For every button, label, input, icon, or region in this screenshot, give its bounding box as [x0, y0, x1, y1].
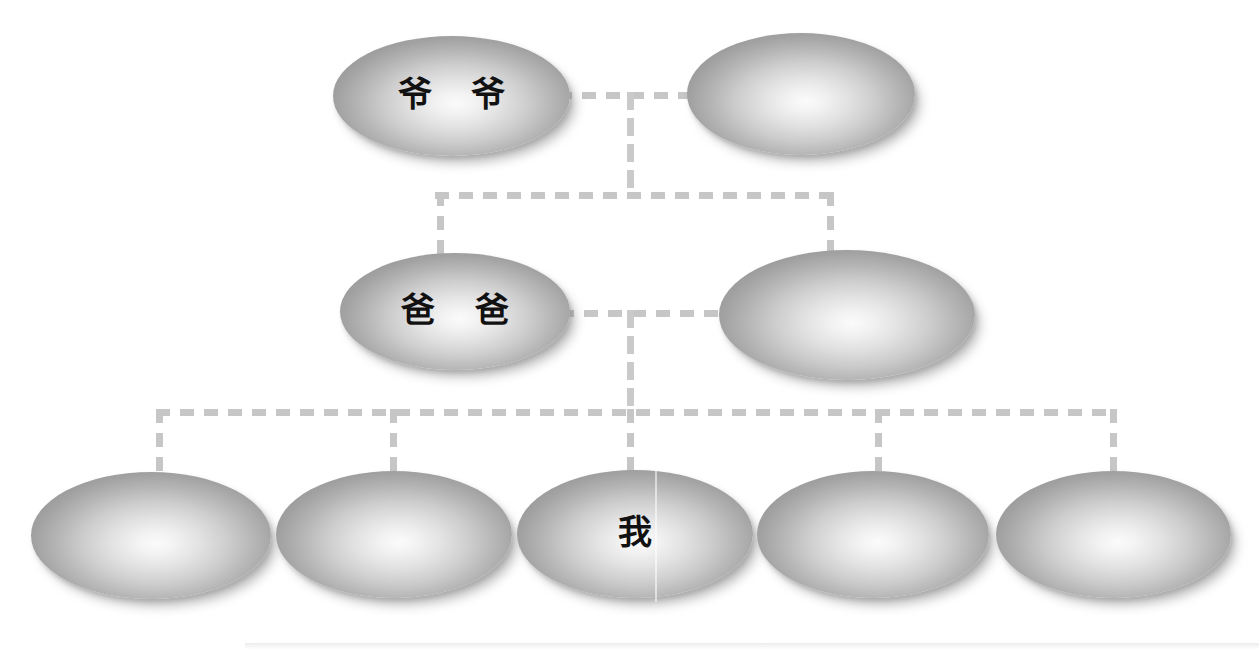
node-father-label: 爸 爸 — [387, 293, 523, 327]
node-father[interactable]: 爸 爸 — [340, 253, 570, 370]
connector-children-bus — [156, 409, 1116, 416]
node-sibling-4[interactable] — [757, 471, 989, 598]
node-grandfather[interactable]: 爷 爷 — [333, 36, 570, 156]
node-self[interactable]: 我 — [517, 470, 753, 598]
node-sibling-2[interactable] — [276, 471, 512, 598]
family-tree-diagram: 爷 爷 爸 爸 我 — [0, 0, 1259, 655]
connector-parents-spouse — [560, 310, 728, 317]
node-self-label: 我 — [618, 515, 652, 549]
connector-parents-bus — [435, 192, 834, 199]
node-sibling-5[interactable] — [996, 471, 1231, 598]
node-sibling-1[interactable] — [31, 472, 271, 599]
node-grandmother[interactable] — [687, 33, 915, 155]
node-mother[interactable] — [719, 250, 975, 380]
node-grandfather-label: 爷 爷 — [384, 77, 520, 111]
cropped-footer-band — [245, 643, 1259, 649]
connector-parents-to-children-drop — [627, 310, 634, 416]
connector-grandparents-drop — [627, 92, 634, 198]
